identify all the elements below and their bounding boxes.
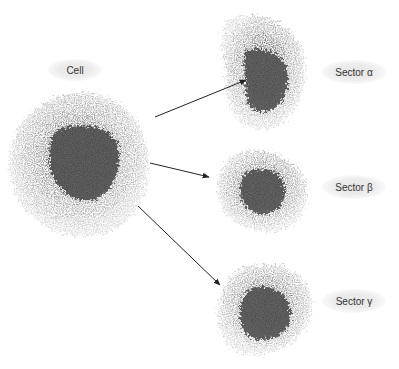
- sector-gamma-cell: [218, 265, 312, 355]
- label-cell: Cell: [48, 59, 102, 81]
- label-sector-beta: Sector β: [322, 175, 386, 199]
- label-sector-alpha: Sector α: [322, 60, 386, 84]
- arrow-to-sector-beta: [150, 163, 209, 177]
- arrow-to-sector-gamma: [138, 206, 220, 285]
- source-cell: [10, 93, 148, 236]
- sector-beta-cell: [218, 150, 308, 231]
- sector-alpha-cell: [222, 16, 305, 129]
- label-sector-gamma: Sector γ: [322, 289, 386, 313]
